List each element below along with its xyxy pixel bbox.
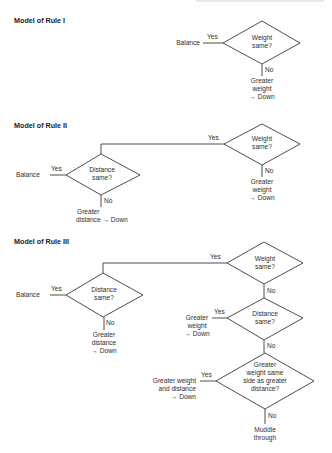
rule-3-weight-node-text: Weight same? (239, 255, 291, 271)
rule-3-distance-no-label: No (106, 319, 114, 327)
rule-3-distance-yes-label: Yes (51, 285, 62, 293)
rule-3-weight-no-label: No (267, 287, 275, 295)
rule-2-distance-node-text: Distance same? (76, 166, 128, 182)
rule-1-no-outcome: Greater weight → Down (240, 77, 284, 101)
rule-3-balance-outcome: Balance (16, 291, 40, 299)
rule-2-distance-no-label: No (104, 197, 112, 205)
rule-3-yes-connector (103, 263, 227, 273)
rule-2-weight-node-text: Weight same? (236, 135, 288, 151)
rule-2-weight-no-label: No (265, 167, 273, 175)
rule-3-conflict-no-label: No (268, 412, 276, 420)
rule-3-distance2-no-label: No (267, 342, 275, 350)
rule-3-title: Model of Rule III (14, 237, 69, 246)
rule-2-weight-yes-label: Yes (208, 134, 219, 142)
rule-2-weight-no-outcome: Greater weight → Down (240, 178, 284, 202)
rule-1-yes-label: Yes (207, 33, 218, 41)
rule-2-yes-connector (101, 144, 224, 154)
rule-1-no-label: No (265, 66, 273, 74)
rule-2-distance-no-outcome: Greater distance → Down (76, 208, 128, 224)
rule-1-balance-outcome: Balance (160, 39, 200, 47)
rule-3-distance-no-outcome: Greater distance → Down (84, 331, 124, 355)
rule-3-conflict-no-outcome: Muddle through (243, 426, 287, 442)
rule-3-conflict-yes-label: Yes (201, 371, 212, 379)
rule-3-conflict-node-text: Greater weight same side as greater dist… (228, 361, 302, 393)
rule-3-distance2-node-text: Distance same? (239, 310, 291, 326)
rule-2-title: Model of Rule II (14, 121, 67, 130)
rule-3-distance2-yes-label: Yes (214, 308, 225, 316)
rule-3-conflict-yes-outcome: Greater weight and distance → Down (136, 377, 196, 401)
rule-1-title: Model of Rule I (14, 16, 65, 25)
rule-1-weight-node-text: Weight same? (236, 34, 288, 50)
rule-2-balance-outcome: Balance (16, 171, 40, 179)
rule-3-weight-yes-label: Yes (210, 253, 221, 261)
rule-3-distance-node-text: Distance same? (78, 286, 130, 302)
rule-2-distance-yes-label: Yes (51, 165, 62, 173)
rule-3-distance2-yes-outcome: Greater weight → Down (181, 314, 213, 338)
